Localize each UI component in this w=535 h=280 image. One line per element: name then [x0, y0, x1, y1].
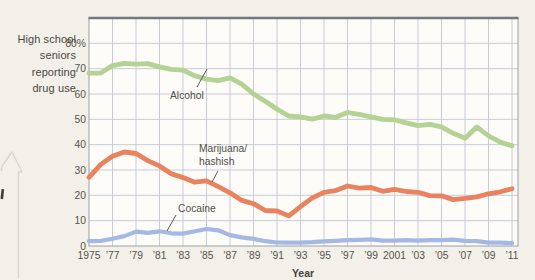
x-tick-label: ’07: [458, 250, 472, 261]
partial-arrow-outline: [2, 152, 23, 278]
y-axis-title-line: High school: [0, 31, 76, 47]
x-tick-label: ’91: [270, 250, 284, 261]
alcohol-annotation: Alcohol: [170, 90, 204, 101]
y-axis-title-line: seniors: [0, 47, 76, 63]
x-tick-label: 2001: [383, 250, 406, 261]
x-tick-label: ’83: [176, 250, 190, 261]
y-tick-label: 20: [75, 190, 87, 201]
y-axis-title-line: drug use: [0, 80, 76, 96]
line-chart: 80%7060504030201001975’77’79’81’83’85’87…: [0, 0, 535, 280]
y-tick-label: 60: [75, 89, 87, 100]
y-tick-label: 70: [75, 63, 87, 74]
marijuana-annotation: hashish: [199, 156, 235, 167]
x-tick-label: ’05: [435, 250, 449, 261]
y-tick-label: 40: [75, 139, 87, 150]
y-axis-title: High school seniors reporting drug use: [0, 31, 76, 97]
x-tick-label: ’93: [294, 250, 308, 261]
x-tick-label: ’85: [200, 250, 214, 261]
drug-use-trends-figure: High school seniors reporting drug use 8…: [0, 0, 535, 280]
y-tick-label: 30: [75, 165, 87, 176]
y-axis-title-line: reporting: [0, 64, 76, 80]
x-tick-label: 1975: [78, 250, 101, 261]
page-edge-mark: [0, 189, 4, 199]
y-tick-label: 10: [75, 215, 87, 226]
x-tick-label: ’99: [364, 250, 378, 261]
x-tick-label: ’11: [506, 250, 519, 261]
x-tick-label: ’87: [223, 250, 237, 261]
x-tick-label: ’89: [247, 250, 261, 261]
x-tick-label: ’97: [341, 250, 355, 261]
x-tick-label: ’79: [129, 250, 143, 261]
x-tick-label: ’77: [106, 250, 120, 261]
x-tick-label: ’81: [153, 250, 167, 261]
x-tick-label: ’03: [411, 250, 425, 261]
marijuana-annotation: Marijuana/: [199, 143, 247, 154]
x-axis-title: Year: [253, 267, 353, 279]
cocaine-annotation: Cocaine: [178, 203, 216, 214]
x-tick-label: ’95: [317, 250, 331, 261]
y-tick-label: 50: [75, 114, 87, 125]
x-tick-label: ’09: [482, 250, 496, 261]
